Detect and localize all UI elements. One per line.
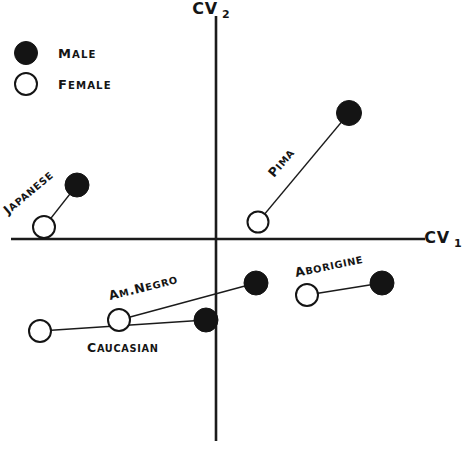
x-axis-label-text: CV (424, 228, 449, 247)
legend-female-marker-icon (15, 73, 37, 95)
x-axis-label-subscript: 1 (454, 237, 462, 250)
pima-group-label: PIMA (265, 145, 298, 180)
pima-female-point (248, 212, 269, 233)
plot-canvas: CV 2 CV 1 MALE FEMALE JAPANESE (0, 0, 471, 466)
legend-female-label: FEMALE (58, 77, 112, 92)
am-negro-group-label: AM.NEGRO (107, 271, 179, 303)
japanese-group-label: JAPANESE (0, 167, 56, 218)
am-negro-male-point (244, 271, 268, 295)
legend: MALE FEMALE (15, 42, 112, 96)
am-negro-female-point (108, 309, 130, 331)
y-axis-label-text: CV (192, 0, 217, 18)
group-am-negro: AM.NEGRO (107, 271, 268, 331)
pima-male-point (337, 101, 362, 126)
legend-male-label: MALE (58, 46, 97, 61)
y-axis-label-subscript: 2 (222, 8, 230, 21)
x-axis-label: CV 1 (424, 228, 461, 250)
caucasian-female-point (29, 320, 51, 342)
legend-male-marker-icon (15, 42, 38, 65)
group-pima: PIMA (248, 101, 362, 233)
group-japanese: JAPANESE (0, 167, 89, 238)
aborigine-group-label: ABORIGINE (294, 251, 365, 280)
aborigine-female-point (296, 284, 318, 306)
group-aborigine: ABORIGINE (294, 251, 394, 306)
canonical-variate-scatter-plot: CV 2 CV 1 MALE FEMALE JAPANESE (0, 0, 471, 466)
legend-entry-male: MALE (15, 42, 97, 65)
legend-entry-female: FEMALE (15, 73, 112, 95)
aborigine-male-point (370, 271, 394, 295)
japanese-male-point (65, 173, 89, 197)
caucasian-group-label: CAUCASIAN (87, 340, 159, 355)
caucasian-male-point (194, 308, 218, 332)
y-axis-label: CV 2 (192, 0, 229, 21)
japanese-female-point (33, 216, 55, 238)
